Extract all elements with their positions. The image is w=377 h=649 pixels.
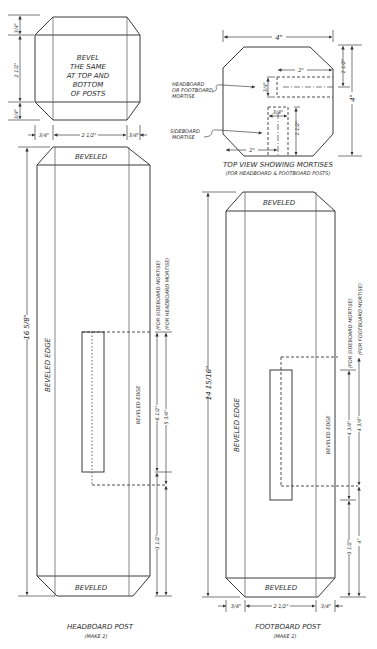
top-view-title: TOP VIEW SHOWING MORTISES bbox=[223, 161, 333, 169]
top-view-subtitle: (FOR HEADBOARD & FOOTBOARD POSTS) bbox=[225, 170, 330, 176]
footboard-dim-bottom-inner: 3 1/2" bbox=[346, 539, 352, 554]
top-view-dim-height: 4" bbox=[349, 94, 357, 102]
footboard-edge-right: BEVELED EDGE bbox=[325, 415, 331, 454]
bevel-note-line-1: BEVEL bbox=[77, 54, 99, 62]
footboard-edge-left: BEVELED EDGE bbox=[233, 397, 241, 452]
headboard-beveled-top: BEVELED bbox=[75, 153, 108, 161]
headboard-dim-bottom: 3 1/2" bbox=[154, 534, 160, 549]
footboard-width-right: 3/4" bbox=[321, 603, 331, 609]
footboard-dim-sideboard: 4 3/4" bbox=[346, 420, 352, 435]
top-view-mortise-length-side: 1 1/2" bbox=[294, 120, 300, 135]
bevel-width-center: 2 1/2" bbox=[81, 132, 96, 138]
headboard-post: BEVELED BEVELED BEVELED EDGE BEVELED EDG… bbox=[18, 147, 172, 639]
callout-headboard-line-3: MORTISE bbox=[172, 93, 195, 99]
headboard-dim-headboard: 5 3/4" bbox=[163, 409, 169, 424]
footboard-beveled-bottom: BEVELED bbox=[265, 584, 298, 592]
top-view-mortise-width-side: 3/4" bbox=[273, 109, 283, 115]
footboard-post: BEVELED BEVELED BEVELED EDGE BEVELED EDG… bbox=[202, 192, 366, 639]
headboard-note-headboard: (FOR HEADBOARD MORTISE) bbox=[164, 258, 170, 330]
top-view-dim-width: 4" bbox=[275, 34, 283, 42]
headboard-caption: HEADBOARD POST bbox=[67, 623, 134, 631]
bevel-width-right: 3/4" bbox=[129, 132, 139, 138]
bevel-detail: BEVEL THE SAME AT TOP AND BOTTOM OF POST… bbox=[8, 15, 147, 140]
footboard-beveled-top: BEVELED bbox=[263, 199, 296, 207]
footboard-dim-total: 14 15/16" bbox=[205, 366, 213, 401]
headboard-edge-right: BEVELED EDGE bbox=[135, 385, 141, 424]
bevel-note-line-5: OF POSTS bbox=[71, 90, 106, 98]
footboard-width-center: 2 1/2" bbox=[273, 603, 288, 609]
footboard-note-sideboard: (FOR SIDEBOARD MORTISE) bbox=[347, 298, 353, 368]
footboard-note-footboard: (FOR FOOTBOARD MORTISE) bbox=[357, 283, 363, 355]
bevel-dim-bottom: 3/4" bbox=[13, 109, 19, 119]
headboard-caption-sub: (MAKE 2) bbox=[85, 633, 108, 639]
top-view-mortise-width-top: 3/4" bbox=[262, 82, 268, 92]
headboard-dim-sideboard: 6 1/2" bbox=[154, 405, 160, 420]
bevel-note-line-4: BOTTOM bbox=[73, 81, 103, 89]
footboard-dim-footboard: 4 3/4" bbox=[356, 416, 362, 431]
footboard-width-left: 3/4" bbox=[231, 603, 241, 609]
bevel-dim-middle: 2 1/2" bbox=[13, 62, 19, 77]
headboard-edge-left: BEVELED EDGE bbox=[44, 337, 52, 392]
footboard-caption-sub: (MAKE 2) bbox=[274, 633, 297, 639]
bevel-dim-top: 3/4" bbox=[13, 23, 19, 33]
top-view-mortise-length-top: 2" bbox=[298, 67, 303, 73]
headboard-note-sideboard: (FOR SIDEBOARD MORTISE) bbox=[155, 260, 161, 330]
bevel-width-left: 3/4" bbox=[39, 132, 49, 138]
top-view-dim-offset-top: 1 1/2" bbox=[340, 58, 346, 73]
footboard-dim-bottom-outer: 4" bbox=[356, 538, 362, 543]
footboard-caption: FOOTBOARD POST bbox=[255, 623, 321, 631]
bevel-note-line-3: AT TOP AND bbox=[66, 72, 110, 80]
headboard-dim-total: 16 5/8" bbox=[23, 314, 31, 340]
bevel-note-line-2: THE SAME bbox=[70, 63, 106, 71]
top-view-offset-side: 2" bbox=[249, 147, 254, 153]
top-view-mortises: 4" 1 1/2" 4" 2" 3/4" 3/4" 1 1/2" 2" HEAD… bbox=[170, 30, 362, 176]
post-plans-drawing: BEVEL THE SAME AT TOP AND BOTTOM OF POST… bbox=[0, 0, 377, 649]
headboard-beveled-bottom: BEVELED bbox=[75, 584, 108, 592]
callout-sideboard-line-2: MORTISE bbox=[172, 134, 195, 140]
